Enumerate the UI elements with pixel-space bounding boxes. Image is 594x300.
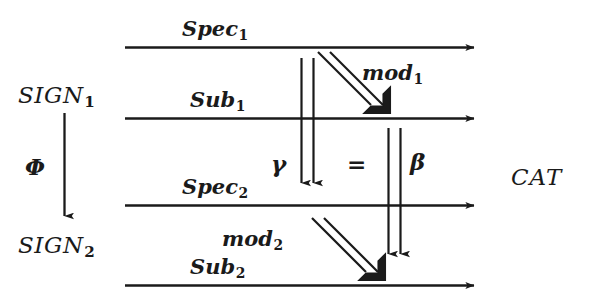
commutative-diagram: SIGN1 Φ SIGN2 Spec1 Sub1 Spec2 Sub2 mod1… (0, 0, 594, 300)
object-label-sign1: SIGN1 (18, 84, 95, 110)
functor-label-phi-base: Φ (25, 153, 45, 180)
equality-label-base: = (347, 150, 366, 177)
equality-label: = (347, 152, 366, 175)
arrow-label-spec1: Spec1 (182, 18, 248, 43)
arrow-label-mod2-base: mod (222, 226, 273, 251)
diagonal-arrow-mod2 (312, 218, 386, 281)
double-arrow-beta (389, 128, 401, 254)
arrow-label-spec2: Spec2 (182, 176, 248, 201)
arrow-label-spec2-subscript: 2 (239, 185, 249, 201)
arrow-label-mod1: mod1 (362, 62, 423, 87)
transformation-label-beta: β (410, 150, 425, 173)
object-label-sign1-base: SIGN (18, 82, 84, 108)
arrow-label-mod2: mod2 (222, 228, 283, 253)
arrow-label-spec2-base: Spec (182, 174, 238, 199)
transformation-label-beta-base: β (410, 148, 425, 175)
arrow-label-sub2: Sub2 (190, 256, 245, 281)
object-label-sign2-subscript: 2 (84, 243, 95, 261)
arrow-label-mod1-base: mod (362, 60, 413, 85)
functor-label-phi: Φ (25, 155, 45, 178)
arrow-label-mod1-subscript: 1 (413, 71, 423, 87)
arrow-label-sub2-subscript: 2 (236, 265, 246, 281)
arrow-label-sub1-base: Sub (190, 87, 235, 112)
transformation-label-gamma-base: γ (271, 150, 286, 177)
arrow-label-mod2-subscript: 2 (273, 237, 283, 253)
object-label-sign2-base: SIGN (18, 232, 84, 258)
arrow-label-sub1: Sub1 (190, 89, 245, 114)
object-label-sign1-subscript: 1 (84, 93, 95, 111)
arrow-label-spec1-base: Spec (182, 16, 238, 41)
category-label-cat-base: CAT (511, 164, 562, 190)
arrow-label-spec1-subscript: 1 (239, 27, 249, 43)
double-arrow-gamma (302, 58, 314, 183)
category-label-cat: CAT (511, 166, 562, 189)
transformation-label-gamma: γ (271, 152, 286, 175)
arrow-label-sub2-base: Sub (190, 254, 235, 279)
arrow-label-sub1-subscript: 1 (236, 98, 246, 114)
object-label-sign2: SIGN2 (18, 234, 95, 260)
